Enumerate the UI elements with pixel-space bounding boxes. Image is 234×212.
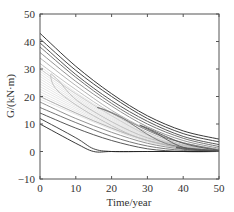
curve-group bbox=[40, 33, 219, 152]
y-tick-label: 50 bbox=[24, 8, 36, 20]
chart-svg: 01020304050−1001020304050 Time/year G/(k… bbox=[0, 0, 234, 212]
x-tick-label: 20 bbox=[106, 182, 118, 194]
y-tick-label: 20 bbox=[24, 91, 36, 103]
x-tick-label: 40 bbox=[178, 182, 190, 194]
x-axis-label: Time/year bbox=[107, 196, 152, 208]
x-tick-label: 50 bbox=[214, 182, 226, 194]
x-tick-label: 30 bbox=[142, 182, 154, 194]
curve-c6 bbox=[40, 58, 219, 149]
y-axis-label: G/(kN·m) bbox=[4, 74, 17, 118]
y-tick-label: 30 bbox=[24, 63, 36, 75]
y-tick-label: 0 bbox=[30, 146, 36, 158]
x-tick-label: 0 bbox=[37, 182, 43, 194]
y-tick-label: −10 bbox=[18, 173, 36, 185]
y-tick-label: 40 bbox=[24, 36, 36, 48]
y-tick-label: 10 bbox=[24, 118, 36, 130]
x-tick-label: 10 bbox=[70, 182, 82, 194]
plot-frame bbox=[40, 14, 219, 179]
